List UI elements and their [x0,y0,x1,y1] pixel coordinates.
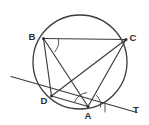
geometry-canvas: B C D A T [0,0,149,125]
chord-ac [88,40,126,107]
point-label-c: C [130,32,137,43]
vertex-dot-d [50,95,53,98]
vertex-dot-c [125,38,128,41]
vertex-dot-a [87,105,90,108]
tangent-line-at-a [11,77,137,113]
geometry-figure: B C D A T [0,0,149,125]
point-label-b: B [29,31,36,42]
chord-bc [44,39,127,40]
point-label-t: T [133,104,139,115]
angle-arc-at-b [55,39,59,52]
vertex-dot-b [42,37,45,40]
point-label-a: A [85,110,92,121]
point-label-d: D [41,95,48,106]
